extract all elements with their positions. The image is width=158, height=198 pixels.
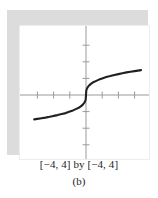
plot-canvas (20, 26, 149, 159)
figure-panel: [−4, 4] by [−4, 4] (b) (0, 0, 158, 198)
figure-caption: [−4, 4] by [−4, 4] (b) (0, 157, 158, 188)
figure-part-label: (b) (0, 174, 158, 188)
plot-viewport (19, 25, 150, 160)
viewing-window-range: [−4, 4] by [−4, 4] (0, 157, 158, 171)
graph-window-frame (7, 10, 148, 155)
